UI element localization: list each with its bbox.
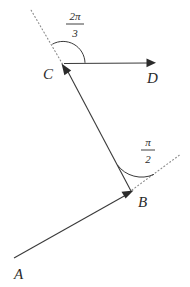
angle-c-denominator: 3: [71, 27, 78, 39]
angle-b-denominator: 2: [145, 153, 151, 165]
dotted-ray-at-b: [132, 154, 181, 190]
dotted-ray-at-c: [31, 10, 63, 64]
arrowhead-at-d: [147, 59, 157, 68]
arrowhead-at-c: [62, 64, 72, 76]
angle-c-numerator: 2π: [69, 10, 81, 22]
arrowhead-at-b: [122, 191, 134, 199]
vector-b-to-c: [67, 70, 131, 191]
angle-b-numerator: π: [145, 136, 151, 148]
point-label-a: A: [13, 266, 24, 282]
vector-c-to-d: [64, 63, 148, 64]
point-label-c: C: [43, 66, 54, 82]
vector-diagram-canvas: C D B A 2π 3 π 2: [0, 0, 190, 287]
vector-diagram-figure: C D B A 2π 3 π 2: [0, 0, 190, 287]
point-label-b: B: [138, 194, 147, 210]
point-label-d: D: [146, 70, 158, 86]
vector-a-to-b: [14, 195, 126, 258]
angle-arc-at-c: [52, 41, 85, 62]
